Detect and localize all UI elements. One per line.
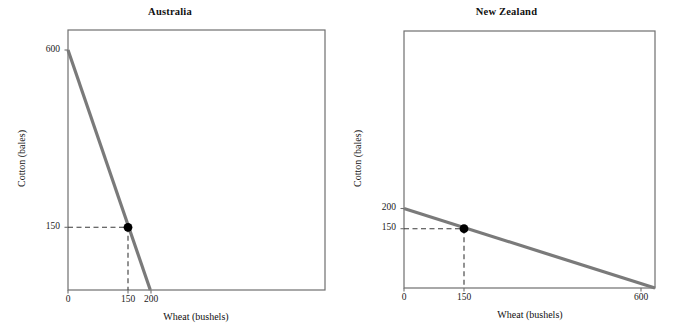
ppf-line-australia [68, 50, 150, 290]
two-panel-ppf-figure: Australia 0 150 200 600 150 W [0, 0, 673, 333]
x-tick-label-0-newzealand: 0 [384, 292, 424, 302]
x-tick-label-200-australia: 200 [131, 294, 171, 304]
y-axis-title-australia: Cotton (bales) [16, 99, 27, 219]
x-axis-title-newzealand: Wheat (bushels) [430, 309, 630, 320]
y-tick-label-150-australia: 150 [20, 221, 60, 231]
y-tick-label-600-australia: 600 [20, 44, 60, 54]
x-axis-title-australia: Wheat (bushels) [96, 311, 296, 322]
y-axis-title-newzealand: Cotton (bales) [352, 99, 363, 219]
x-tick-label-0-australia: 0 [48, 294, 88, 304]
y-tick-label-150-newzealand: 150 [356, 222, 396, 232]
data-point-newzealand [460, 224, 469, 233]
x-tick-label-150-newzealand: 150 [444, 292, 484, 302]
chart-panel-australia: Australia 0 150 200 600 150 W [0, 0, 340, 333]
x-tick-label-600-newzealand: 600 [621, 292, 661, 302]
data-point-australia [124, 223, 133, 232]
ppf-line-newzealand [404, 209, 655, 289]
plot-area-newzealand [340, 0, 673, 333]
chart-panel-newzealand: New Zealand 0 150 600 200 150 [340, 0, 673, 333]
